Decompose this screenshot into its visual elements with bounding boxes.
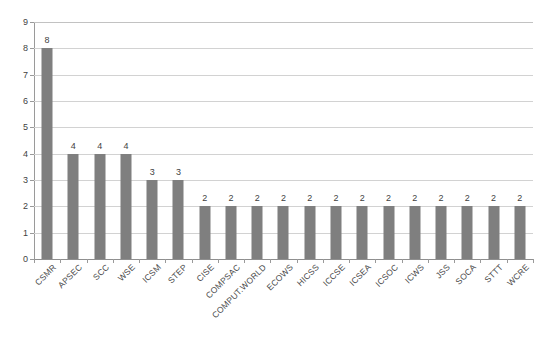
bar-value-label: 3 bbox=[150, 168, 155, 177]
x-label-cise: CISE bbox=[194, 262, 216, 284]
bar-rect bbox=[278, 206, 289, 259]
bar-value-label: 4 bbox=[97, 142, 102, 151]
bar-value-label: 2 bbox=[439, 194, 444, 203]
x-label-soca: SOCA bbox=[454, 262, 479, 287]
bar-value-label: 2 bbox=[491, 194, 496, 203]
y-tick-label-1: 1 bbox=[0, 229, 28, 238]
y-tick-label-8: 8 bbox=[0, 44, 28, 53]
x-label-icws: ICWS bbox=[403, 262, 426, 285]
bar-rect bbox=[357, 206, 368, 259]
bar-icsoc[interactable]: 2 bbox=[375, 22, 401, 259]
bar-value-label: 2 bbox=[465, 194, 470, 203]
bar-rect bbox=[147, 180, 158, 259]
bar-compsac[interactable]: 2 bbox=[218, 22, 244, 259]
bar-icsm[interactable]: 3 bbox=[139, 22, 165, 259]
y-tick-label-3: 3 bbox=[0, 176, 28, 185]
bar-value-label: 3 bbox=[176, 168, 181, 177]
bar-icsea[interactable]: 2 bbox=[349, 22, 375, 259]
x-label-jss: JSS bbox=[434, 262, 453, 281]
y-tick-label-6: 6 bbox=[0, 97, 28, 106]
bar-value-label: 2 bbox=[412, 194, 417, 203]
bar-cise[interactable]: 2 bbox=[192, 22, 218, 259]
bar-hicss[interactable]: 2 bbox=[297, 22, 323, 259]
x-label-wcre: WCRE bbox=[505, 262, 531, 288]
bar-value-label: 2 bbox=[307, 194, 312, 203]
bar-icws[interactable]: 2 bbox=[402, 22, 428, 259]
bar-ecows[interactable]: 2 bbox=[270, 22, 296, 259]
x-label-csmr: CSMR bbox=[33, 262, 58, 287]
bar-rect bbox=[409, 206, 420, 259]
bar-rect bbox=[304, 206, 315, 259]
bar-rect bbox=[68, 154, 79, 259]
bar-rect bbox=[436, 206, 447, 259]
bar-rect bbox=[42, 48, 53, 259]
bar-apsec[interactable]: 4 bbox=[60, 22, 86, 259]
y-tick-label-7: 7 bbox=[0, 71, 28, 80]
y-tick-label-2: 2 bbox=[0, 202, 28, 211]
bar-value-label: 8 bbox=[45, 36, 50, 45]
bar-rect bbox=[225, 206, 236, 259]
bar-rect bbox=[94, 154, 105, 259]
y-tick-label-5: 5 bbox=[0, 123, 28, 132]
x-label-sttt: STTT bbox=[482, 262, 505, 285]
bar-iccse[interactable]: 2 bbox=[323, 22, 349, 259]
bar-rect bbox=[383, 206, 394, 259]
bar-value-label: 4 bbox=[71, 142, 76, 151]
bar-value-label: 2 bbox=[334, 194, 339, 203]
y-tick-label-9: 9 bbox=[0, 18, 28, 27]
bar-value-label: 2 bbox=[386, 194, 391, 203]
y-tick-label-4: 4 bbox=[0, 150, 28, 159]
bar-rect bbox=[173, 180, 184, 259]
bar-rect bbox=[199, 206, 210, 259]
bars-group: 8444332222222222222 bbox=[34, 22, 533, 259]
x-label-scc: SCC bbox=[91, 262, 111, 282]
bar-value-label: 2 bbox=[255, 194, 260, 203]
bar-step[interactable]: 3 bbox=[165, 22, 191, 259]
bar-value-label: 2 bbox=[360, 194, 365, 203]
bar-comput-world[interactable]: 2 bbox=[244, 22, 270, 259]
x-label-icsm: ICSM bbox=[141, 262, 164, 285]
bar-value-label: 2 bbox=[281, 194, 286, 203]
bar-wcre[interactable]: 2 bbox=[507, 22, 533, 259]
bar-chart: 0123456789 8444332222222222222 CSMRAPSEC… bbox=[0, 0, 555, 344]
x-label-icsoc: ICSOC bbox=[373, 262, 400, 289]
bar-value-label: 2 bbox=[228, 194, 233, 203]
x-label-step: STEP bbox=[166, 262, 189, 285]
bar-sttt[interactable]: 2 bbox=[480, 22, 506, 259]
bar-rect bbox=[462, 206, 473, 259]
bar-rect bbox=[120, 154, 131, 259]
x-label-ecows: ECOWS bbox=[264, 262, 294, 292]
bar-wse[interactable]: 4 bbox=[113, 22, 139, 259]
x-label-iccse: ICCSE bbox=[321, 262, 347, 288]
bar-csmr[interactable]: 8 bbox=[34, 22, 60, 259]
x-label-hicss: HICSS bbox=[295, 262, 321, 288]
bar-rect bbox=[488, 206, 499, 259]
bar-rect bbox=[252, 206, 263, 259]
x-label-apsec: APSEC bbox=[56, 262, 84, 290]
x-axis-labels: CSMRAPSECSCCWSEICSMSTEPCISECOMPSACCOMPUT… bbox=[0, 262, 555, 344]
bar-rect bbox=[514, 206, 525, 259]
x-label-icsea: ICSEA bbox=[348, 262, 374, 288]
bar-scc[interactable]: 4 bbox=[87, 22, 113, 259]
bar-value-label: 2 bbox=[517, 194, 522, 203]
bar-soca[interactable]: 2 bbox=[454, 22, 480, 259]
bar-jss[interactable]: 2 bbox=[428, 22, 454, 259]
bar-value-label: 4 bbox=[123, 142, 128, 151]
x-label-wse: WSE bbox=[116, 262, 137, 283]
bar-value-label: 2 bbox=[202, 194, 207, 203]
bar-rect bbox=[331, 206, 342, 259]
